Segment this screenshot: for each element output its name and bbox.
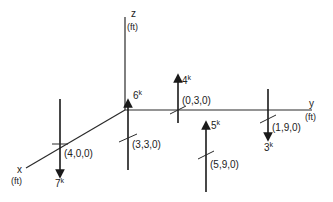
force-3k: (1,9,0) 3k xyxy=(260,89,301,153)
x-axis-unit: (ft) xyxy=(11,176,22,186)
magnitude-label: 4k xyxy=(182,74,192,86)
point-label: (3,3,0) xyxy=(132,139,161,150)
x-axis xyxy=(26,110,125,168)
magnitude-label: 6k xyxy=(133,89,143,101)
point-label: (0,3,0) xyxy=(182,95,211,106)
point-label: (1,9,0) xyxy=(272,122,301,133)
magnitude-label: 7k xyxy=(55,177,65,189)
z-axis-unit: (ft) xyxy=(127,22,138,32)
point-label: (5,9,0) xyxy=(210,159,239,170)
z-axis-label: z xyxy=(131,8,136,19)
point-label: (4,0,0) xyxy=(64,148,93,159)
force-7k: (4,0,0) 7k xyxy=(52,99,93,189)
magnitude-label: 5k xyxy=(211,119,221,131)
force-4k: (0,3,0) 4k xyxy=(170,74,211,123)
force-5k: (5,9,0) 5k xyxy=(198,119,239,192)
y-axis-unit: (ft) xyxy=(305,112,316,122)
magnitude-label: 3k xyxy=(264,141,274,153)
force-diagram: z (ft) y (ft) x (ft) (4,0,0) 7k (3,3,0) … xyxy=(0,0,333,202)
y-axis-label: y xyxy=(309,98,314,109)
x-axis-label: x xyxy=(17,164,22,175)
